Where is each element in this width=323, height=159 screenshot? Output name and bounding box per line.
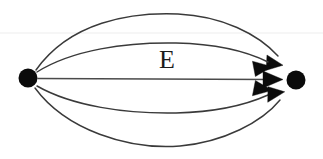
edge-bottom-outer-path xyxy=(35,88,280,147)
edge-straight-arrowhead xyxy=(263,71,283,88)
graph-diagram: E xyxy=(0,0,323,159)
left-vertex[interactable] xyxy=(19,69,38,88)
right-vertex[interactable] xyxy=(287,71,306,90)
edge-top-outer-arrowhead xyxy=(263,55,284,74)
edge-bottom-inner xyxy=(37,79,272,113)
edge-bottom-outer xyxy=(35,83,286,146)
edge-bottom-inner-path xyxy=(37,86,268,113)
graph-canvas xyxy=(0,0,323,159)
edge-set-label: E xyxy=(150,45,184,75)
edge-straight-path xyxy=(38,79,270,80)
